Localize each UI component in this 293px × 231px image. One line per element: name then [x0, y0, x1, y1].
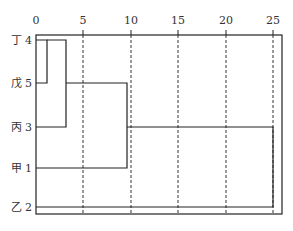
leaf-label: 丁 4 [11, 34, 33, 47]
leaf-label: 乙 2 [11, 201, 33, 214]
leaf-label: 甲 1 [11, 162, 33, 175]
leaf-label: 戊 5 [11, 77, 33, 90]
branch-ding-wu [36, 40, 47, 83]
axis-tick-labels: 0 5 10 15 20 25 [33, 14, 281, 27]
tick-label-0: 0 [33, 14, 40, 27]
leaf-labels: 丁 4 戊 5 丙 3 甲 1 乙 2 [11, 34, 33, 214]
ticks [83, 30, 273, 35]
dendrogram: 0 5 10 15 20 25 丁 4 戊 5 丙 3 甲 1 乙 2 [0, 0, 293, 231]
grid-lines [83, 35, 273, 214]
leaf-label: 丙 3 [11, 121, 33, 134]
tick-label-10: 10 [124, 14, 138, 27]
tick-label-5: 5 [80, 14, 87, 27]
branch-with-yi [36, 127, 273, 207]
tick-label-15: 15 [171, 14, 185, 27]
tick-label-20: 20 [219, 14, 233, 27]
plot-frame [36, 35, 282, 214]
branch-with-jia [36, 83, 127, 168]
dendrogram-branches [36, 40, 273, 207]
tick-label-25: 25 [266, 14, 280, 27]
